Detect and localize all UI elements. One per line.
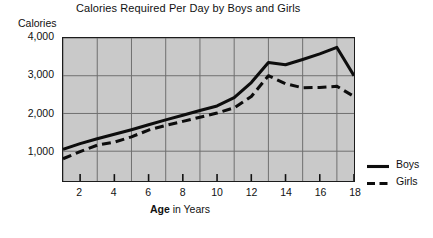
chart-legend: BoysGirls [366, 155, 419, 189]
y-axis-tick-label: 4,000 [2, 30, 54, 42]
x-axis-tick-label: 12 [240, 186, 264, 198]
plot-svg [63, 38, 354, 181]
dashed-line-icon [366, 175, 390, 186]
x-axis-tick-label: 18 [343, 186, 367, 198]
x-axis-title-bold: Age [150, 203, 170, 215]
x-axis-tick-label: 2 [67, 186, 91, 198]
y-axis-tick-label: 3,000 [2, 68, 54, 80]
legend-item-girls: Girls [366, 172, 419, 189]
y-axis-tick-label: 1,000 [2, 145, 54, 157]
x-axis-title-rest: in Years [170, 203, 210, 215]
plot-area [62, 37, 355, 182]
x-axis-tick-label: 8 [171, 186, 195, 198]
x-axis-tick-label: 14 [274, 186, 298, 198]
series-line-girls [63, 76, 354, 159]
x-axis-tick-label: 10 [205, 186, 229, 198]
chart-container: Calories Required Per Day by Boys and Gi… [0, 0, 433, 238]
x-axis-tick-label: 16 [309, 186, 333, 198]
legend-item-boys: Boys [366, 155, 419, 172]
chart-title: Calories Required Per Day by Boys and Gi… [76, 2, 300, 14]
x-axis-tick-label: 4 [102, 186, 126, 198]
legend-label: Boys [396, 158, 419, 170]
solid-line-icon [366, 158, 390, 169]
x-axis-title: Age in Years [0, 203, 360, 215]
y-axis-title: Calories [18, 17, 57, 29]
series-line-boys [63, 47, 354, 149]
y-axis-tick-label: 2,000 [2, 107, 54, 119]
x-axis-tick-label: 6 [136, 186, 160, 198]
legend-label: Girls [396, 175, 418, 187]
